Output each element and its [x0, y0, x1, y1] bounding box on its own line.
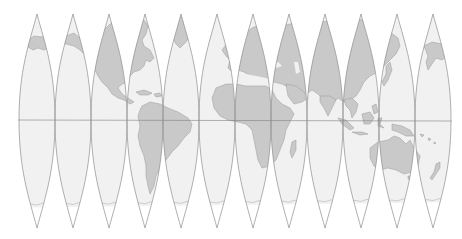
antarctic-coastline: [23, 199, 447, 206]
land-antarctica: [0, 202, 462, 239]
world-map-gores: [0, 0, 462, 239]
